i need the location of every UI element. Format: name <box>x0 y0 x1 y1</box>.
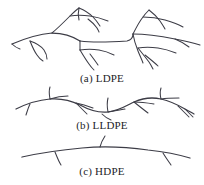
caption-ldpe: (a) LDPE <box>80 72 124 85</box>
polyethylene-diagram-canvas: (a) LDPE (b) LLDPE (c) HDPE <box>0 0 204 185</box>
figure-background <box>0 0 204 185</box>
caption-hdpe: (c) HDPE <box>79 165 124 178</box>
caption-lldpe: (b) LLDPE <box>76 119 128 132</box>
polyethylene-figure: (a) LDPE (b) LLDPE (c) HDPE <box>0 0 204 185</box>
